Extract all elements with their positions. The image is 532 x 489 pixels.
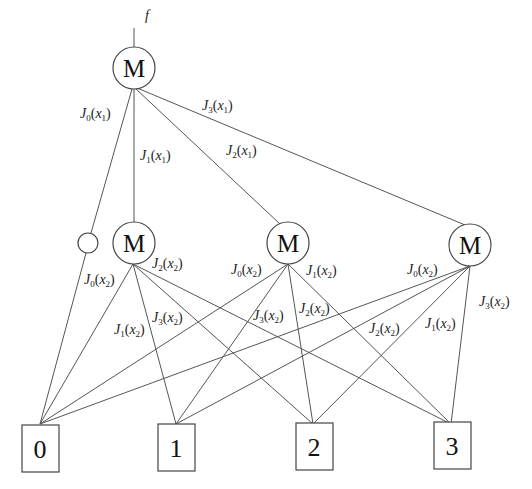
svg-text:1: 1: [170, 434, 183, 463]
label-m2-j3: J3(x2): [253, 308, 284, 325]
label-m2-j1: J1(x2): [306, 263, 337, 280]
label-m2-j0: J0(x2): [231, 262, 262, 279]
terminal-1: 1: [158, 424, 195, 471]
label-m2-j2: J2(x2): [299, 301, 330, 318]
edge-m2-0: [40, 264, 288, 424]
svg-text:0: 0: [34, 435, 47, 464]
edge-m3-3: [451, 266, 470, 424]
label-top-j3: J3(x1): [202, 98, 233, 115]
bypass-node: [78, 233, 98, 253]
label-top-j0: J0(x1): [80, 106, 111, 123]
edge-top-j3: [137, 88, 465, 225]
terminal-2: 2: [296, 423, 333, 470]
terminal-3: 3: [434, 422, 471, 469]
svg-text:M: M: [277, 230, 299, 257]
svg-text:2: 2: [308, 433, 321, 462]
edge-m1-0: [40, 264, 133, 424]
terminal-0: 0: [22, 425, 59, 472]
mdd-diagram: f M M M M 0 1: [0, 0, 532, 489]
label-m3-j1: J1(x2): [425, 316, 456, 333]
edge-m2-1: [176, 264, 288, 424]
label-m3-j3: J3(x2): [479, 294, 510, 311]
edge-m1-2: [133, 264, 313, 424]
svg-text:M: M: [123, 55, 145, 82]
edge-m1-1: [133, 264, 176, 424]
edge-m3-0: [40, 266, 470, 424]
mux-node-1: M: [113, 222, 155, 264]
svg-text:M: M: [123, 230, 145, 257]
mux-node-3: M: [449, 224, 491, 266]
edge-m3-2: [313, 266, 470, 424]
edge-m2-3: [288, 264, 451, 424]
svg-text:M: M: [459, 232, 481, 259]
label-m1-j0: J0(x2): [84, 272, 115, 289]
label-m3-j0: J0(x2): [407, 262, 438, 279]
label-top-j1: J1(x1): [140, 148, 171, 165]
svg-text:3: 3: [446, 432, 459, 461]
mux-node-2: M: [267, 222, 309, 264]
edge-m3-1: [176, 266, 470, 424]
label-m1-j1: J1(x2): [114, 322, 145, 339]
mux-node-top: M: [113, 47, 155, 89]
label-top-j2: J2(x1): [226, 143, 257, 160]
label-m1-j3: J3(x2): [152, 310, 183, 327]
output-label: f: [145, 8, 151, 23]
label-m1-j2: J2(x2): [152, 256, 183, 273]
label-m3-j2: J2(x2): [369, 321, 400, 338]
